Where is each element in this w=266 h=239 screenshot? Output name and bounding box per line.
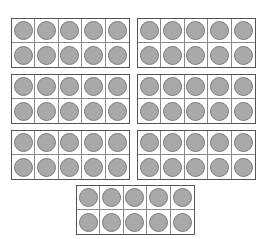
ten-frame-cell bbox=[232, 155, 255, 179]
ten-frame-cell bbox=[171, 186, 194, 210]
ten-frame-cell bbox=[106, 131, 129, 155]
counter-circle-icon bbox=[186, 21, 205, 40]
counter-circle-icon bbox=[60, 46, 79, 65]
ten-frame-cell bbox=[82, 155, 105, 179]
counter-circle-icon bbox=[84, 21, 103, 40]
counter-circle-icon bbox=[108, 133, 127, 152]
counter-circle-icon bbox=[37, 46, 56, 65]
counter-circle-icon bbox=[84, 46, 103, 65]
counter-circle-icon bbox=[14, 133, 33, 152]
ten-frame-cell bbox=[138, 99, 161, 123]
counter-circle-icon bbox=[60, 158, 79, 177]
ten-frame-cell bbox=[59, 75, 82, 99]
ten-frame-cell bbox=[161, 99, 184, 123]
ten-frame-cell bbox=[138, 43, 161, 67]
counter-circle-icon bbox=[37, 102, 56, 121]
ten-frame-cell bbox=[232, 43, 255, 67]
counter-circle-icon bbox=[210, 77, 229, 96]
counter-circle-icon bbox=[108, 77, 127, 96]
ten-frame-cell bbox=[138, 75, 161, 99]
counter-circle-icon bbox=[60, 102, 79, 121]
counter-circle-icon bbox=[14, 77, 33, 96]
counter-circle-icon bbox=[108, 102, 127, 121]
counter-circle-icon bbox=[186, 102, 205, 121]
counter-circle-icon bbox=[186, 133, 205, 152]
ten-frame-3 bbox=[11, 74, 130, 124]
ten-frame-cell bbox=[208, 131, 231, 155]
ten-frame-cell bbox=[35, 99, 58, 123]
ten-frame-cell bbox=[100, 186, 123, 210]
ten-frame-cell bbox=[59, 99, 82, 123]
counter-circle-icon bbox=[60, 133, 79, 152]
ten-frame-6 bbox=[137, 130, 256, 180]
counter-circle-icon bbox=[234, 46, 253, 65]
counter-circle-icon bbox=[210, 158, 229, 177]
ten-frame-cell bbox=[208, 75, 231, 99]
ten-frame-cell bbox=[161, 75, 184, 99]
counter-circle-icon bbox=[210, 102, 229, 121]
ten-frame-cell bbox=[59, 155, 82, 179]
ten-frame-2 bbox=[137, 18, 256, 68]
counter-circle-icon bbox=[84, 77, 103, 96]
ten-frame-cell bbox=[232, 19, 255, 43]
counter-circle-icon bbox=[125, 213, 144, 232]
counter-circle-icon bbox=[149, 188, 168, 207]
ten-frame-cell bbox=[12, 19, 35, 43]
counter-circle-icon bbox=[163, 21, 182, 40]
ten-frame-cell bbox=[232, 131, 255, 155]
ten-frame-cell bbox=[161, 43, 184, 67]
counter-circle-icon bbox=[173, 188, 192, 207]
ten-frame-cell bbox=[35, 75, 58, 99]
ten-frame-cell bbox=[138, 155, 161, 179]
counter-circle-icon bbox=[140, 133, 159, 152]
counter-circle-icon bbox=[84, 102, 103, 121]
ten-frame-cell bbox=[232, 75, 255, 99]
counter-circle-icon bbox=[163, 158, 182, 177]
counter-circle-icon bbox=[234, 102, 253, 121]
counter-circle-icon bbox=[210, 133, 229, 152]
counter-circle-icon bbox=[37, 158, 56, 177]
ten-frame-cell bbox=[35, 155, 58, 179]
ten-frame-cell bbox=[82, 43, 105, 67]
ten-frame-cell bbox=[106, 155, 129, 179]
counter-circle-icon bbox=[163, 77, 182, 96]
ten-frame-cell bbox=[124, 186, 147, 210]
ten-frame-cell bbox=[138, 19, 161, 43]
counter-circle-icon bbox=[140, 46, 159, 65]
ten-frame-cell bbox=[147, 186, 170, 210]
counter-circle-icon bbox=[149, 213, 168, 232]
ten-frame-cell bbox=[138, 131, 161, 155]
ten-frame-cell bbox=[106, 43, 129, 67]
ten-frame-5 bbox=[11, 130, 130, 180]
counter-circle-icon bbox=[14, 158, 33, 177]
ten-frame-cell bbox=[185, 131, 208, 155]
ten-frame-cell bbox=[161, 19, 184, 43]
counter-circle-icon bbox=[163, 46, 182, 65]
ten-frame-cell bbox=[35, 19, 58, 43]
ten-frame-cell bbox=[77, 210, 100, 234]
counter-circle-icon bbox=[108, 46, 127, 65]
ten-frame-cell bbox=[59, 19, 82, 43]
counter-circle-icon bbox=[84, 158, 103, 177]
counter-circle-icon bbox=[14, 102, 33, 121]
counter-circle-icon bbox=[102, 213, 121, 232]
counter-circle-icon bbox=[108, 21, 127, 40]
ten-frame-cell bbox=[100, 210, 123, 234]
ten-frame-cell bbox=[147, 210, 170, 234]
ten-frame-cell bbox=[77, 186, 100, 210]
counter-circle-icon bbox=[125, 188, 144, 207]
ten-frame-cell bbox=[106, 75, 129, 99]
ten-frame-cell bbox=[185, 99, 208, 123]
ten-frame-cell bbox=[185, 75, 208, 99]
ten-frame-cell bbox=[59, 131, 82, 155]
counter-circle-icon bbox=[140, 77, 159, 96]
ten-frame-cell bbox=[185, 155, 208, 179]
ten-frame-cell bbox=[208, 99, 231, 123]
ten-frame-cell bbox=[106, 19, 129, 43]
ten-frame-cell bbox=[171, 210, 194, 234]
counter-circle-icon bbox=[79, 188, 98, 207]
counter-circle-icon bbox=[163, 102, 182, 121]
ten-frame-cell bbox=[82, 19, 105, 43]
counter-circle-icon bbox=[102, 188, 121, 207]
ten-frame-cell bbox=[161, 131, 184, 155]
